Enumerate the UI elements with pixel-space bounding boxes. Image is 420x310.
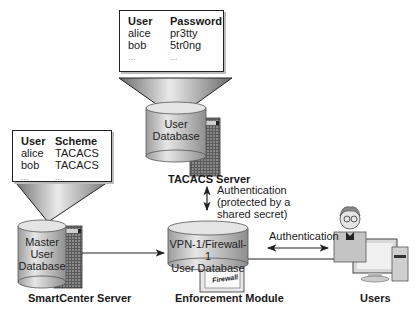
users-caption: Users: [360, 292, 391, 304]
smartcenter-callout: [12, 178, 114, 222]
user-computer-icon: [334, 207, 408, 282]
smartcenter-server-caption: SmartCenter Server: [28, 292, 131, 304]
tacacs-user-password-table: User Password alice pr3tty bob 5tr0ng ..…: [119, 10, 224, 72]
table-row: alice pr3tty: [128, 27, 223, 39]
table-row: ... ...: [128, 51, 223, 63]
table-row: ... ...: [21, 171, 111, 183]
table-row: bob 5tr0ng: [128, 39, 223, 51]
table-header: User Scheme: [21, 135, 111, 147]
tacacs-auth-label: Authentication (protected by a shared se…: [217, 184, 290, 220]
table-row: alice TACACS: [21, 147, 111, 159]
users-auth-label: Authentication: [269, 230, 339, 242]
tacacs-db-label: User Database: [146, 118, 206, 142]
table-row: bob TACACS: [21, 159, 111, 171]
enforcement-db-label: VPN-1/Firewall-1 User Database: [168, 238, 248, 274]
table-header: User Password: [128, 15, 223, 27]
enforcement-module-caption: Enforcement Module: [175, 292, 284, 304]
smartcenter-user-scheme-table: User Scheme alice TACACS bob TACACS ... …: [12, 130, 112, 182]
smartcenter-db-label: Master User Database: [18, 236, 66, 272]
